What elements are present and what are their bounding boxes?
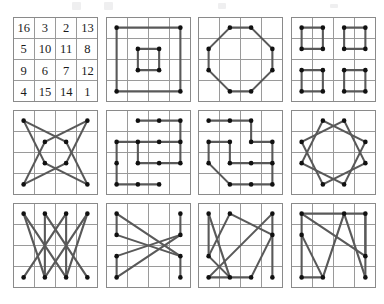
path-node [270, 275, 275, 280]
path-node [178, 118, 183, 123]
magic-square-cell: 13 [81, 21, 94, 35]
path-node [156, 182, 161, 187]
path-node [156, 118, 161, 123]
path-node [64, 275, 69, 280]
path-node [206, 211, 211, 216]
path-node [270, 182, 275, 187]
path-node [135, 118, 140, 123]
path-node [228, 161, 233, 166]
path-node [363, 211, 368, 216]
path-node [135, 68, 140, 73]
path-node [21, 211, 26, 216]
path-node [178, 254, 183, 259]
path-node [178, 25, 183, 30]
path-node [43, 211, 48, 216]
panel-eight-point-star [13, 110, 98, 195]
magic-square-cell: 12 [81, 64, 94, 78]
path-node [320, 118, 325, 123]
path-node [249, 161, 254, 166]
path-node [341, 25, 346, 30]
magic-square-cell: 6 [42, 64, 48, 78]
path-node [228, 25, 233, 30]
magic-square-cell: 7 [63, 64, 69, 78]
path-node [64, 161, 69, 166]
path-node [114, 89, 119, 94]
path-node [299, 211, 304, 216]
path-node [299, 25, 304, 30]
magic-square-cell: 8 [84, 42, 90, 56]
grid-lines [106, 110, 191, 195]
panel-tilted-quadrilaterals-a [198, 203, 283, 288]
grid-lines [106, 17, 191, 102]
path-node [206, 118, 211, 123]
path-node [85, 211, 90, 216]
path-node [363, 254, 368, 259]
path-node [206, 47, 211, 52]
path-node [363, 68, 368, 73]
path-node [228, 275, 233, 280]
grid-lines [291, 110, 376, 195]
path-node [363, 140, 368, 145]
panel-x-cross-columns [106, 203, 191, 288]
path-node [21, 182, 26, 187]
path-node [43, 161, 48, 166]
path-node [114, 233, 119, 238]
path-node [114, 211, 119, 216]
path-node [299, 47, 304, 52]
path-node [270, 233, 275, 238]
path-node [85, 182, 90, 187]
path-node [85, 275, 90, 280]
figure-root: 16321351011896712415141 [0, 0, 384, 304]
path-node [178, 161, 183, 166]
path-node [320, 25, 325, 30]
path-node [341, 118, 346, 123]
path-node [299, 233, 304, 238]
panel-concentric-squares [106, 17, 191, 102]
panel-pinwheel-pattern-a [106, 110, 191, 195]
path-node [114, 182, 119, 187]
magic-square-cell: 1 [84, 85, 90, 99]
panel-tilted-quadrilaterals-b [291, 203, 376, 288]
path-node [21, 118, 26, 123]
path-node [320, 89, 325, 94]
path-node [270, 47, 275, 52]
path-node [156, 68, 161, 73]
magic-square-cell: 15 [39, 85, 52, 99]
panel-pinwheel-pattern-b [198, 110, 283, 195]
path-node [178, 233, 183, 238]
path-node [341, 89, 346, 94]
magic-square-cell: 16 [17, 21, 30, 35]
path-node [249, 140, 254, 145]
path-node [114, 25, 119, 30]
path-node [178, 140, 183, 145]
path-node [320, 275, 325, 280]
panel-octagon-edge-cells [198, 17, 283, 102]
path-node [114, 254, 119, 259]
path-node [64, 211, 69, 216]
path-node [114, 161, 119, 166]
grid-lines [198, 17, 283, 102]
path-node [135, 47, 140, 52]
magic-square-cell: 14 [60, 85, 73, 99]
path-node [320, 68, 325, 73]
path-node [206, 140, 211, 145]
grid-lines [198, 110, 283, 195]
panel-four-quadrant-squares [291, 17, 376, 102]
path-node [249, 25, 254, 30]
path-node [299, 140, 304, 145]
magic-square-cell: 2 [63, 21, 69, 35]
path-node [270, 140, 275, 145]
path-node [43, 275, 48, 280]
path-node [270, 211, 275, 216]
path-node [206, 254, 211, 259]
path-node [114, 275, 119, 280]
panel-grid: 16321351011896712415141 [0, 0, 384, 304]
path-node [228, 118, 233, 123]
path-node [85, 118, 90, 123]
path-node [156, 47, 161, 52]
path-node [206, 161, 211, 166]
path-node [178, 211, 183, 216]
path-node [178, 89, 183, 94]
path-node [341, 47, 346, 52]
path-node [341, 211, 346, 216]
